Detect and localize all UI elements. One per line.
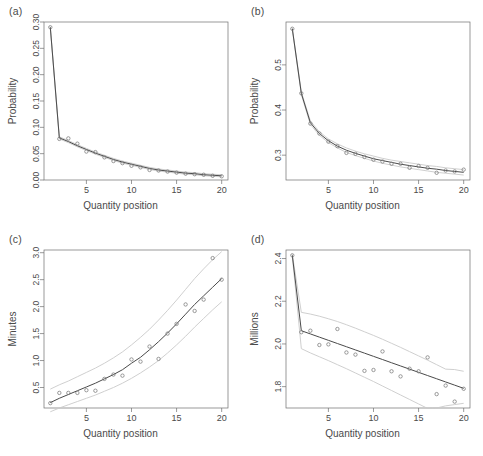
data-point [462,387,465,390]
panel-a-xlabel: Quantity position [0,200,241,211]
data-point [399,375,402,378]
data-point [85,389,88,392]
fitted-curve [292,255,463,388]
ytick-label: 0.30 [31,13,41,30]
data-point [426,356,429,359]
data-point [372,368,375,371]
confidence-band-lower [50,28,221,177]
ytick-label: 0.4 [273,104,283,116]
xtick-label: 10 [368,185,378,195]
confidence-band-upper [50,252,221,390]
xtick-label: 10 [126,185,136,195]
panel-d-xlabel: Quantity position [242,428,483,439]
ytick-label: 0.5 [273,59,283,71]
xtick-label: 20 [217,413,227,423]
ytick-label: 0.10 [31,119,41,136]
xtick-label: 20 [217,185,227,195]
xtick-label: 5 [326,185,331,195]
data-point [130,358,133,361]
data-point [139,360,142,363]
confidence-band-lower [292,30,463,175]
confidence-band-lower [50,302,221,412]
ytick-label: 0.00 [31,171,41,188]
data-point [435,392,438,395]
data-point [148,345,151,348]
fitted-curve [292,29,463,173]
panel-b: (b) 0.30.40.55101520Probability Quantity… [242,0,483,228]
ytick-label: 2.4 [273,252,283,264]
panel-ylabel: Minutes [7,311,18,346]
panel-b-plot: 0.30.40.55101520Probability [242,0,483,228]
data-point [363,369,366,372]
data-point [67,137,70,140]
xtick-label: 15 [414,185,424,195]
xtick-label: 20 [459,185,469,195]
data-point [58,391,61,394]
data-point [94,389,97,392]
panel-ylabel: Probability [249,78,260,125]
ytick-label: 1.5 [31,327,41,339]
data-point [49,401,52,404]
data-point [309,329,312,332]
ytick-label: 0.25 [31,40,41,57]
data-point [354,353,357,356]
confidence-band-upper [292,28,463,170]
data-point [220,175,223,178]
data-point [184,303,187,306]
data-point [76,391,79,394]
panel-c-plot: 0.51.01.52.02.53.05101520Minutes [0,228,241,456]
data-point [318,343,321,346]
ytick-label: 0.3 [273,149,283,161]
panel-b-xlabel: Quantity position [242,200,483,211]
fitted-curve [50,27,221,176]
data-point [193,309,196,312]
panel-ylabel: Probability [7,78,18,125]
figure-panel-grid: (a) 0.000.050.100.150.200.250.305101520P… [0,0,483,456]
panel-c: (c) 0.51.01.52.02.53.05101520Minutes Qua… [0,228,241,456]
xtick-label: 15 [414,413,424,423]
panel-c-xlabel: Quantity position [0,428,241,439]
xtick-label: 10 [126,413,136,423]
xtick-label: 5 [84,413,89,423]
confidence-band-lower [292,256,463,408]
ytick-label: 2.0 [273,338,283,350]
ytick-label: 0.15 [31,92,41,109]
data-point [336,327,339,330]
data-point [202,298,205,301]
ytick-label: 0.5 [31,381,41,393]
ytick-label: 2.2 [273,295,283,307]
ytick-label: 2.5 [31,273,41,285]
data-point [327,343,330,346]
xtick-label: 15 [172,413,182,423]
ytick-label: 3.0 [31,247,41,259]
figure-caption-partial [4,447,474,456]
panel-ylabel: Millions [249,312,260,345]
data-point [453,400,456,403]
data-point [345,351,348,354]
panel-a-plot: 0.000.050.100.150.200.250.305101520Proba… [0,0,241,228]
xtick-label: 20 [459,413,469,423]
xtick-label: 15 [172,185,182,195]
data-point [390,370,393,373]
data-point [381,350,384,353]
xtick-label: 5 [84,185,89,195]
ytick-label: 0.05 [31,145,41,162]
confidence-band-upper [292,254,463,371]
ytick-label: 0.20 [31,66,41,83]
xtick-label: 5 [326,413,331,423]
data-point [444,384,447,387]
ytick-label: 1.0 [31,354,41,366]
data-point [121,374,124,377]
confidence-band-upper [50,27,221,175]
xtick-label: 10 [368,413,378,423]
ytick-label: 2.0 [31,300,41,312]
ytick-label: 1.8 [273,380,283,392]
panel-a: (a) 0.000.050.100.150.200.250.305101520P… [0,0,241,228]
panel-d: (d) 1.82.02.22.45101520Millions Quantity… [242,228,483,456]
panel-d-plot: 1.82.02.22.45101520Millions [242,228,483,456]
